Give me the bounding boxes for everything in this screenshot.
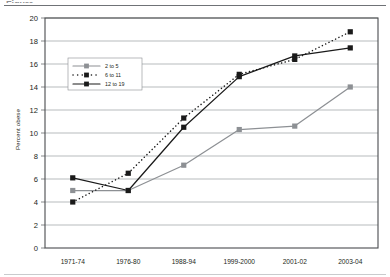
y-axis-tick-label: 2: [34, 221, 38, 230]
data-point-marker: [126, 171, 131, 176]
data-point-marker: [292, 124, 297, 129]
cropped-heading-remnant: Figure: [6, 0, 156, 3]
x-axis-tick-label: 2001-02: [283, 258, 308, 265]
figure-container: Figure Percent obese 0246810121416182019…: [0, 0, 390, 277]
legend-label: 2 to 5: [105, 63, 119, 69]
legend-label: 12 to 19: [105, 81, 124, 87]
top-horizontal-rule: [4, 5, 386, 6]
x-axis-tick-label: 1971-74: [61, 258, 86, 265]
data-point-marker: [181, 125, 186, 130]
chart-plot-area: 024681012141618201971-741976-801988-9419…: [0, 8, 390, 274]
data-point-marker: [237, 127, 242, 132]
y-axis-tick-label: 10: [30, 129, 38, 138]
line-chart: Percent obese 024681012141618201971-7419…: [0, 8, 390, 274]
y-axis-tick-label: 18: [30, 37, 38, 46]
y-axis-tick-label: 4: [34, 198, 38, 207]
y-axis-tick-label: 12: [30, 106, 38, 115]
y-axis-tick-label: 8: [34, 152, 38, 161]
data-point-marker: [70, 199, 75, 204]
legend-marker: [84, 82, 89, 87]
bottom-horizontal-rule: [4, 274, 386, 275]
data-point-marker: [237, 72, 242, 77]
data-point-marker: [126, 188, 131, 193]
x-axis-tick-label: 2003-04: [338, 258, 363, 265]
data-point-marker: [348, 84, 353, 89]
data-point-marker: [181, 163, 186, 168]
legend-marker: [84, 64, 89, 69]
legend-label: 6 to 11: [105, 72, 121, 78]
data-point-marker: [348, 29, 353, 34]
legend-marker: [84, 73, 89, 78]
y-axis-tick-label: 0: [34, 244, 38, 253]
data-point-marker: [292, 57, 297, 62]
y-axis-title: Percent obese: [14, 93, 21, 167]
y-axis-tick-label: 16: [30, 60, 38, 69]
y-axis-tick-label: 6: [34, 175, 38, 184]
x-axis-tick-label: 1976-80: [116, 258, 141, 265]
data-point-marker: [348, 45, 353, 50]
y-axis-tick-label: 20: [30, 14, 38, 23]
x-axis-tick-label: 1999-2000: [223, 258, 255, 265]
data-point-marker: [70, 188, 75, 193]
data-point-marker: [70, 175, 75, 180]
data-point-marker: [181, 115, 186, 120]
y-axis-tick-label: 14: [30, 83, 38, 92]
x-axis-tick-label: 1988-94: [172, 258, 197, 265]
